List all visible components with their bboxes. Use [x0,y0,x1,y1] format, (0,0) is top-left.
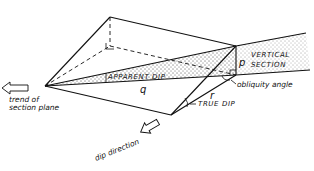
vertical-label: VERTICAL [251,51,290,59]
apparent-dip-label: APPARENT DIP [107,73,166,81]
trend-label-line2: section plane [9,103,60,112]
obliquity-angle-label: obliquity angle [237,80,293,89]
apparent-dip-diagram: APPARENT DIP q p r VERTICAL SECTION obli… [0,0,314,171]
dip-direction-arrow-icon [138,117,161,137]
q-label: q [140,84,146,95]
section-label: SECTION [251,61,286,69]
p-label: p [238,57,245,68]
dip-direction-label: dip direction [93,137,140,163]
trend-arrow-icon [2,82,28,94]
true-dip-label: TRUE DIP [198,100,236,108]
